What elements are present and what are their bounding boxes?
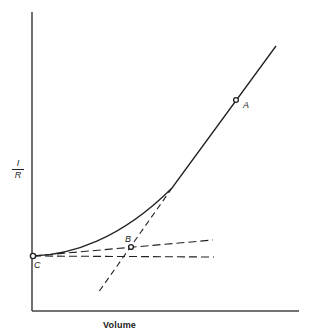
main-curve: [33, 46, 276, 256]
y-axis-label-numerator: I: [12, 159, 24, 170]
y-axis-label: I R: [12, 159, 24, 180]
diagram-canvas: [0, 0, 310, 336]
point-a-label: A: [243, 101, 249, 110]
y-axis-label-denominator: R: [12, 170, 24, 180]
point-b-label: B: [125, 235, 131, 244]
dashed-linear-extrapolation: [98, 188, 172, 293]
point-a-marker: [234, 98, 239, 103]
point-c-label: C: [34, 261, 41, 270]
dashed-initial-tangent: [33, 240, 213, 256]
x-axis-label: Volume: [103, 320, 136, 330]
point-c-marker: [30, 253, 35, 258]
point-b-marker: [129, 245, 134, 250]
